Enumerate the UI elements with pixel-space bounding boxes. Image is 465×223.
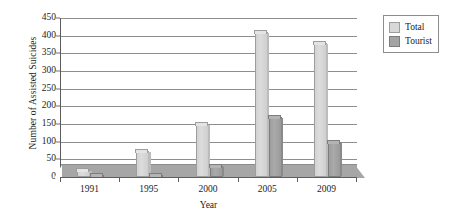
bar-total-2000 <box>196 124 209 177</box>
y-tick-label: 150 <box>42 119 56 129</box>
bar-group <box>255 18 282 177</box>
y-tick-label: 100 <box>42 137 56 147</box>
x-tick-mark <box>297 177 298 182</box>
chart-legend: TotalTourist <box>383 15 439 53</box>
x-tick-label-1991: 1991 <box>80 184 99 194</box>
chart-figure: Number of Assisted Suicides 050100150200… <box>0 0 465 223</box>
x-tick-label-1995: 1995 <box>139 184 158 194</box>
bar-side-face <box>340 143 343 176</box>
bar-top-face <box>254 30 267 34</box>
x-axis-ticks: 19911995200020052009 <box>60 180 357 196</box>
legend-swatch-icon <box>389 22 400 33</box>
bar-tourist-2005 <box>269 117 282 177</box>
x-tick-label-2009: 2009 <box>317 184 336 194</box>
bar-group <box>196 18 223 177</box>
bar-total-2009 <box>314 43 327 177</box>
bar-top-face <box>209 164 222 168</box>
legend-swatch-icon <box>389 36 400 47</box>
y-axis-ticks: 050100150200250300350400450 <box>26 12 56 178</box>
bar-tourist-2009 <box>328 142 341 177</box>
y-tick-label: 50 <box>47 155 57 165</box>
x-tick-label-2005: 2005 <box>258 184 277 194</box>
y-tick-label: 200 <box>42 102 56 112</box>
bar-top-face <box>268 115 281 119</box>
bar-group <box>136 18 163 177</box>
bar-side-face <box>222 167 225 176</box>
y-tick-label: 400 <box>42 31 56 41</box>
x-tick-mark <box>119 177 120 182</box>
bar-side-face <box>281 118 284 176</box>
bar-group <box>77 18 104 177</box>
x-tick-mark <box>178 177 179 182</box>
bar-tourist-2000 <box>210 166 223 177</box>
bar-top-face <box>195 122 208 126</box>
y-tick-label: 350 <box>42 49 56 59</box>
x-tick-mark <box>60 177 61 182</box>
x-tick-mark <box>238 177 239 182</box>
legend-label: Total <box>405 22 424 32</box>
y-tick-label: 250 <box>42 84 56 94</box>
bar-total-1991 <box>77 170 90 177</box>
x-axis-label: Year <box>60 200 357 210</box>
bar-top-face <box>313 41 326 45</box>
legend-item-total[interactable]: Total <box>389 20 432 34</box>
bar-total-1995 <box>136 151 149 178</box>
x-tick-label-2000: 2000 <box>199 184 218 194</box>
bar-top-face <box>327 140 340 144</box>
y-tick-label: 450 <box>42 13 56 23</box>
y-tick-label: 300 <box>42 66 56 76</box>
legend-item-tourist[interactable]: Tourist <box>389 34 432 48</box>
legend-label: Tourist <box>405 36 432 46</box>
bar-total-2005 <box>255 32 268 177</box>
bar-top-face <box>135 149 148 153</box>
x-axis-line <box>60 177 357 178</box>
plot-area <box>60 18 357 177</box>
bar-top-face <box>76 168 89 172</box>
x-tick-mark <box>356 177 357 182</box>
bar-group <box>314 18 341 177</box>
